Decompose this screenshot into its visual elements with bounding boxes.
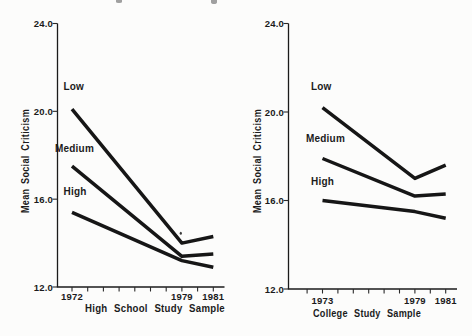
y-tick-label: 24.0 xyxy=(265,18,284,29)
x-tick-label: 1979 xyxy=(171,291,193,302)
x-axis-title: College Study Sample xyxy=(313,307,421,319)
y-tick-label: 24.0 xyxy=(34,18,53,29)
series-line-medium xyxy=(323,159,446,197)
cropped-text-remnant xyxy=(116,0,122,3)
series-label-low: Low xyxy=(64,81,85,92)
y-tick-label: 20.0 xyxy=(265,107,284,118)
series-label-high: High xyxy=(64,186,87,197)
y-tick-label: 12.0 xyxy=(265,284,284,295)
chart-panel-college: 24.020.016.012.0197319791981LowMediumHig… xyxy=(252,18,457,319)
y-tick-label: 16.0 xyxy=(265,195,284,206)
x-axis-title: High School Study Sample xyxy=(85,302,225,314)
y-axis-title: Mean Social Criticism xyxy=(20,109,31,213)
series-label-high: High xyxy=(311,176,334,187)
y-tick-label: 16.0 xyxy=(34,194,53,205)
x-tick-label: 1981 xyxy=(435,295,457,306)
x-tick-label: 1981 xyxy=(202,291,224,302)
x-tick-label: 1979 xyxy=(404,295,426,306)
series-label-medium: Medium xyxy=(306,133,345,144)
print-speck xyxy=(180,232,182,235)
y-tick-label: 12.0 xyxy=(34,282,53,293)
x-tick-label: 1972 xyxy=(61,291,83,302)
cropped-text-remnant xyxy=(211,0,217,4)
chart-panel-highschool: 24.020.016.012.0197219791981LowMediumHig… xyxy=(20,18,225,314)
scanned-figure-page: 24.020.016.012.0197219791981LowMediumHig… xyxy=(0,0,472,336)
y-axis-title: Mean Social Criticism xyxy=(252,109,263,213)
mean-social-criticism-figure: 24.020.016.012.0197219791981LowMediumHig… xyxy=(0,0,472,336)
series-line-high xyxy=(323,201,446,219)
x-tick-label: 1973 xyxy=(312,295,334,306)
series-label-medium: Medium xyxy=(55,143,94,154)
y-tick-label: 20.0 xyxy=(34,106,53,117)
series-label-low: Low xyxy=(311,81,332,92)
